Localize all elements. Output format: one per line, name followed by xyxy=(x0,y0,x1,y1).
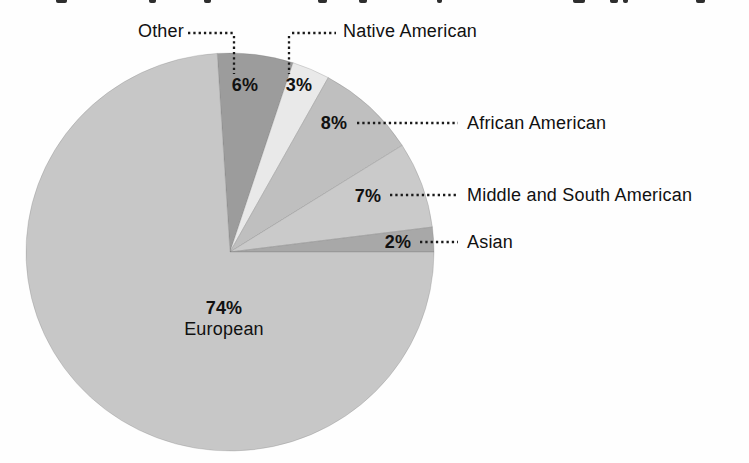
pct-label-native-american: 3% xyxy=(269,75,329,95)
pct-label-middle-south-american: 7% xyxy=(338,186,398,206)
label-middle-south-american: Middle and South American xyxy=(467,185,692,205)
label-european: European xyxy=(159,319,289,339)
label-african-american: African American xyxy=(467,113,606,133)
pie-chart-figure: Other Native American African American M… xyxy=(0,0,749,463)
pct-label-asian: 2% xyxy=(368,232,428,252)
label-asian: Asian xyxy=(467,232,513,252)
label-native-american: Native American xyxy=(343,21,477,41)
pct-label-african-american: 8% xyxy=(304,113,364,133)
pct-label-other: 6% xyxy=(215,75,275,95)
pct-label-european: 74% xyxy=(194,298,254,318)
label-other: Other xyxy=(60,21,184,41)
